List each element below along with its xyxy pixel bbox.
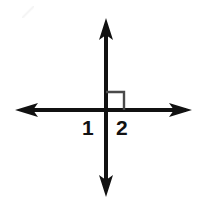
angle-label-1: 1 — [82, 117, 94, 138]
angle-label-2: 2 — [116, 117, 128, 138]
perpendicular-lines-diagram — [0, 0, 203, 202]
geometry-figure-canvas: 1 2 — [0, 0, 203, 202]
right-angle-square-icon — [106, 92, 124, 110]
